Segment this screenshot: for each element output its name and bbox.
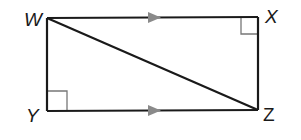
right-angle-mark-y (47, 91, 67, 111)
vertex-label-y: Y (26, 105, 40, 126)
parallel-arrow-icon-wx (148, 12, 161, 23)
vertex-label-z: Z (263, 104, 275, 125)
geometry-diagram: W X Y Z (0, 0, 301, 140)
vertex-label-w: W (24, 9, 44, 30)
parallel-arrow-icon-yz (148, 105, 161, 116)
vertex-label-x: X (264, 6, 279, 27)
right-angle-mark-x (241, 17, 258, 34)
diagonal-wz (47, 18, 258, 110)
